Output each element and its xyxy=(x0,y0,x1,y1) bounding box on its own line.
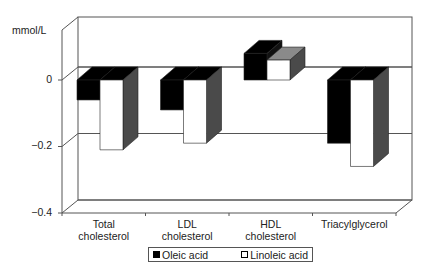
legend: Oleic acid Linoleic acid xyxy=(148,247,313,262)
legend-item-linoleic: Linoleic acid xyxy=(241,249,308,261)
gridline-depth-1 xyxy=(62,134,78,147)
legend-swatch-oleic xyxy=(153,251,160,258)
bar-linoleic-1-front xyxy=(184,80,207,143)
side-wall-top-edge xyxy=(62,17,78,30)
bar-linoleic-3 xyxy=(351,67,389,166)
legend-swatch-linoleic xyxy=(241,251,248,258)
y-tick-0: 0 xyxy=(12,73,52,85)
bar-oleic-3-front xyxy=(328,80,351,143)
x-label-0: Total cholesterol xyxy=(62,218,146,242)
x-label-1: LDL cholesterol xyxy=(146,218,230,242)
y-tick-minus-0.2: −0.2 xyxy=(12,139,52,151)
bar-linoleic-3-front xyxy=(351,80,374,166)
legend-item-oleic: Oleic acid xyxy=(153,249,208,261)
bar-oleic-2-front xyxy=(244,53,267,80)
legend-label-oleic: Oleic acid xyxy=(162,249,208,261)
floor-right-edge xyxy=(396,200,412,213)
bar-linoleic-0 xyxy=(100,67,138,150)
x-label-3: Triacylglycerol xyxy=(313,218,397,230)
bar-linoleic-0-front xyxy=(100,80,123,150)
bar-oleic-0-front xyxy=(77,80,100,100)
legend-label-linoleic: Linoleic acid xyxy=(250,249,308,261)
x-label-2: HDL cholesterol xyxy=(229,218,313,242)
bar-linoleic-0-side xyxy=(123,67,138,150)
bar-linoleic-1-side xyxy=(207,67,222,143)
y-tick-minus-0.4: −0.4 xyxy=(12,206,52,218)
bar-linoleic-2-front xyxy=(267,60,290,80)
bar-linoleic-3-side xyxy=(374,67,389,166)
y-axis-label: mmol/L xyxy=(12,24,46,36)
bar-oleic-1-front xyxy=(161,80,184,110)
gridline-depth-2 xyxy=(62,200,78,213)
gridline-depth-0 xyxy=(62,67,78,80)
bar-linoleic-1 xyxy=(184,67,222,143)
